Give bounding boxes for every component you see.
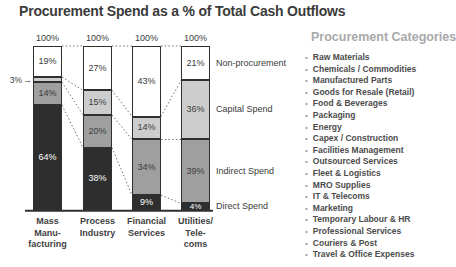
- bar-segment: 19%: [33, 46, 62, 77]
- segment-connector-line: [112, 115, 132, 140]
- bar-segment: 34%: [132, 139, 161, 195]
- segment-connector-line: [161, 195, 181, 203]
- segment-connector-line: [112, 148, 132, 196]
- segment-connector-line: [112, 90, 132, 116]
- bar-category-label-line: Tele-: [156, 228, 236, 240]
- bar-segment: 36%: [181, 80, 210, 139]
- bar-segment: 27%: [83, 46, 112, 90]
- spend-label: Non-procurement: [216, 58, 286, 68]
- annotation-label: 3%: [10, 75, 22, 85]
- segment-value-label: 4%: [190, 203, 202, 211]
- arrow-right-icon: →: [23, 75, 32, 85]
- spend-label: Indirect Spend: [216, 166, 274, 176]
- bar-segment: 14%: [132, 117, 161, 140]
- bar-segment: 21%: [181, 46, 210, 80]
- segment-value-label: 20%: [88, 127, 106, 136]
- bar-segment: 20%: [83, 115, 112, 148]
- bar-segment: 9%: [132, 195, 161, 210]
- bar-segment: 64%: [33, 105, 62, 210]
- total-label: 100%: [122, 33, 171, 43]
- segment-value-label: 21%: [186, 59, 204, 68]
- bar-segment: 4%: [181, 203, 210, 210]
- segment-value-label: 38%: [88, 174, 106, 183]
- segment-connector-line: [62, 77, 83, 90]
- segment-value-label: 27%: [88, 64, 106, 73]
- segment-value-label: 15%: [88, 98, 106, 107]
- bar-segment: 14%: [33, 82, 62, 105]
- segment-connector-line: [62, 82, 83, 115]
- spend-label: Capital Spend: [216, 104, 273, 114]
- segment-connector-line: [62, 105, 83, 148]
- bar-segment: 39%: [181, 139, 210, 203]
- segment-value-label: 14%: [137, 123, 155, 132]
- bar-segment: 15%: [83, 90, 112, 115]
- segment-connector-line: [161, 80, 181, 116]
- segment-value-label: 19%: [38, 57, 56, 66]
- spend-label: Direct Spend: [216, 201, 268, 211]
- segment-value-label: 36%: [186, 105, 204, 114]
- segment-value-label: 43%: [137, 77, 155, 86]
- bar-segment: 38%: [83, 148, 112, 210]
- total-label: 100%: [73, 33, 122, 43]
- segment-value-label: 9%: [140, 198, 153, 207]
- segment-value-label: 34%: [137, 163, 155, 172]
- small-segment-annotation: 3%→: [6, 75, 32, 85]
- bar-category-label-line: Utilities/: [156, 216, 236, 228]
- bar-category-label-line: facturing: [8, 239, 88, 251]
- segment-value-label: 64%: [38, 153, 56, 162]
- bar-category-label-line: coms: [156, 239, 236, 251]
- bar-segment: 43%: [132, 46, 161, 117]
- total-label: 100%: [171, 33, 220, 43]
- segment-value-label: 14%: [38, 89, 56, 98]
- bar-category-label: Utilities/Tele-coms: [156, 216, 236, 251]
- segment-value-label: 39%: [186, 167, 204, 176]
- total-label: 100%: [23, 33, 72, 43]
